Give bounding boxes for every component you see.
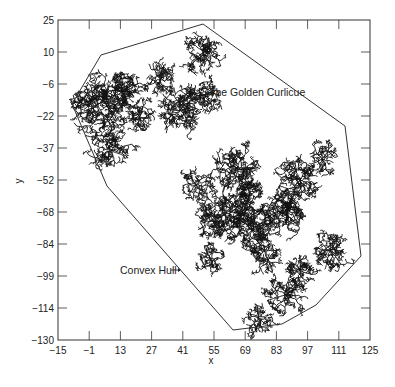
- convex-hull-annotation: Convex Hull: [120, 264, 177, 276]
- y-tick-label: 10: [43, 47, 55, 58]
- golden-curlicue-fractal: [69, 31, 355, 339]
- chart-canvas: −15−113274155698397111125 2510−6−22−37−5…: [0, 0, 395, 387]
- y-tick-label: −22: [37, 111, 54, 122]
- x-tick-label: 83: [271, 345, 283, 356]
- curlicue-annotation: The Golden Curlicue: [209, 86, 305, 98]
- x-tick-label: −15: [50, 345, 67, 356]
- x-tick-label: 125: [362, 345, 379, 356]
- y-tick-label: 25: [43, 15, 55, 26]
- y-tick-label: −114: [32, 303, 54, 314]
- y-tick-label: −68: [37, 207, 54, 218]
- y-tick-label: −37: [37, 143, 54, 154]
- y-tick-label: −52: [37, 175, 54, 186]
- x-tick-label: 27: [146, 345, 158, 356]
- x-tick-label: −1: [83, 345, 95, 356]
- x-axis-label: x: [209, 355, 214, 366]
- x-tick-label: 41: [177, 345, 189, 356]
- y-tick-label: −130: [31, 335, 54, 346]
- y-tick-label: −99: [37, 271, 54, 282]
- y-tick-label: −84: [37, 239, 54, 250]
- x-tick-label: 13: [115, 345, 127, 356]
- x-tick-label: 69: [240, 345, 252, 356]
- x-tick-label: 97: [302, 345, 314, 356]
- x-tick-label: 111: [331, 345, 347, 356]
- y-tick-label: −6: [43, 79, 55, 90]
- y-axis-label: y: [13, 179, 24, 184]
